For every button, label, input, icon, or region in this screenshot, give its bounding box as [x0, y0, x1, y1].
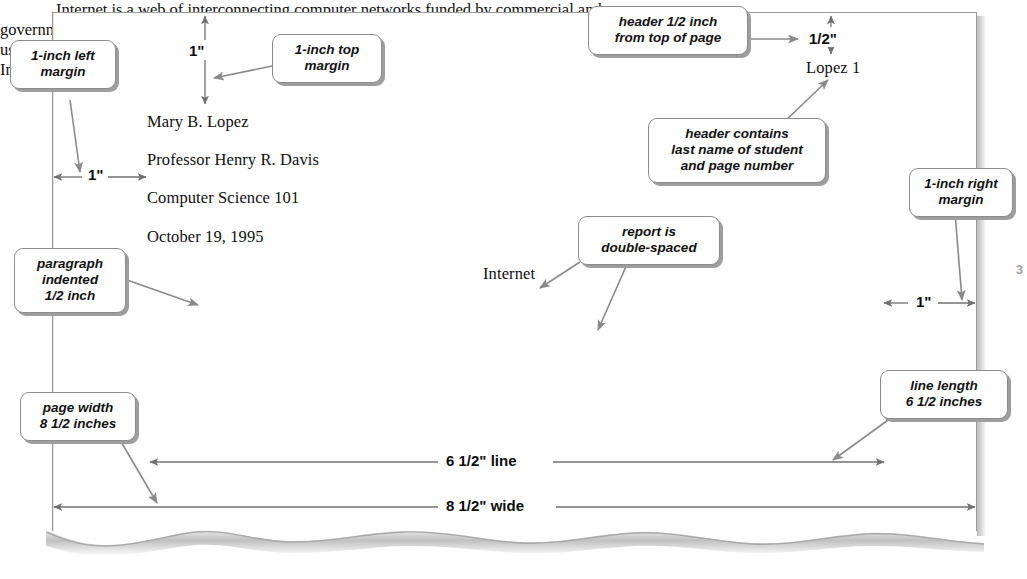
document-heading-professor: Professor Henry R. Davis [147, 150, 319, 170]
callout-line-length: line length 6 1/2 inches [880, 370, 1008, 419]
callout-top-margin: 1-inch top margin [272, 34, 382, 83]
callout-page-width: page width 8 1/2 inches [20, 392, 136, 441]
callout-header-contents: header contains last name of student and… [648, 118, 826, 183]
paper-edge-shadow [977, 16, 986, 536]
document-running-header: Lopez 1 [806, 58, 860, 78]
callout-left-margin: 1-inch left margin [10, 40, 116, 89]
dimension-label-page-width: 8 1/2" wide [443, 497, 527, 514]
dimension-label-header-offset: 1/2" [806, 30, 840, 47]
document-heading-date: October 19, 1995 [147, 227, 264, 247]
torn-paper-edge [46, 530, 984, 556]
cropped-edge-artifact: 3 [1016, 262, 1023, 277]
dimension-label-top-margin: 1" [186, 42, 207, 59]
callout-right-margin: 1-inch right margin [909, 168, 1013, 217]
document-title: Internet [483, 264, 535, 284]
dimension-label-right-margin: 1" [913, 293, 934, 310]
callout-paragraph-indent: paragraph indented 1/2 inch [14, 248, 126, 313]
page-layout-diagram: Lopez 1 Mary B. Lopez Professor Henry R.… [0, 0, 1027, 579]
callout-double-spaced: report is double-spaced [578, 216, 720, 265]
callout-header-half-inch: header 1/2 inch from top of page [588, 6, 748, 55]
dimension-label-left-margin: 1" [85, 166, 106, 183]
document-heading-course: Computer Science 101 [147, 188, 299, 208]
dimension-label-line-length: 6 1/2" line [443, 452, 519, 469]
document-heading-student-name: Mary B. Lopez [147, 112, 249, 132]
